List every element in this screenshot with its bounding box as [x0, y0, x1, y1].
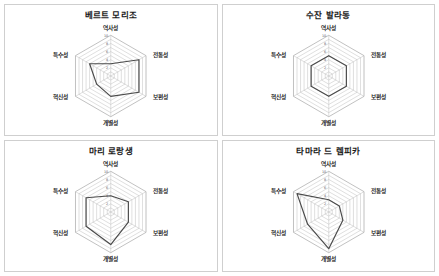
- radar-chart-grid: 베르트 모리조 108642역사성전통성보편성개별성혁신성특수성 수잔 발라동 …: [0, 0, 439, 276]
- axis-label: 특수성: [271, 51, 286, 59]
- axis-label: 보편성: [153, 93, 168, 101]
- axis-label: 개별성: [103, 255, 118, 263]
- radial-tick-label: 8: [324, 42, 326, 46]
- radial-tick-label: 2: [324, 66, 326, 70]
- panel-tamara-de-lempicka: 타마라 드 렘피카 108642역사성전통성보편성개별성혁신성특수성: [222, 140, 436, 272]
- axis-label: 특수성: [271, 187, 286, 195]
- axis-label: 개별성: [321, 119, 336, 127]
- radial-tick-label: 2: [324, 202, 326, 206]
- radial-tick-label: 10: [321, 34, 325, 38]
- radial-tick-label: 10: [321, 170, 325, 174]
- panel-marie-laurencin: 마리 로랑생 108642역사성전통성보편성개별성혁신성특수성: [4, 140, 218, 272]
- axis-label: 보편성: [371, 229, 386, 237]
- panel-suzanne-valadon: 수잔 발라동 108642역사성전통성보편성개별성혁신성특수성: [222, 4, 436, 136]
- radial-tick-label: 10: [104, 34, 108, 38]
- radar-svg: 108642역사성전통성보편성개별성혁신성특수성: [223, 19, 435, 133]
- axis-label: 전통성: [371, 51, 386, 59]
- axis-label: 역사성: [321, 160, 336, 168]
- radial-tick-label: 6: [324, 50, 326, 54]
- radar-chart-marie-laurencin: 108642역사성전통성보편성개별성혁신성특수성: [5, 155, 217, 269]
- radial-tick-label: 6: [324, 186, 326, 190]
- axis-label: 개별성: [321, 255, 336, 263]
- radar-svg: 108642역사성전통성보편성개별성혁신성특수성: [5, 155, 217, 269]
- axis-label: 보편성: [371, 93, 386, 101]
- radar-svg: 108642역사성전통성보편성개별성혁신성특수성: [223, 155, 435, 269]
- radial-tick-label: 2: [106, 66, 108, 70]
- radial-tick-label: 4: [106, 58, 108, 62]
- axis-label: 역사성: [103, 160, 118, 168]
- axis-label: 특수성: [53, 51, 68, 59]
- radial-tick-label: 10: [104, 170, 108, 174]
- radial-tick-label: 8: [106, 178, 108, 182]
- axis-label: 전통성: [371, 187, 386, 195]
- axis-label: 특수성: [53, 187, 68, 195]
- radial-tick-label: 6: [106, 50, 108, 54]
- radial-tick-label: 6: [106, 186, 108, 190]
- radial-tick-label: 8: [324, 178, 326, 182]
- axis-label: 보편성: [153, 229, 168, 237]
- radar-chart-suzanne-valadon: 108642역사성전통성보편성개별성혁신성특수성: [223, 19, 435, 133]
- axis-label: 전통성: [153, 187, 168, 195]
- radial-tick-label: 4: [324, 194, 326, 198]
- axis-label: 혁신성: [53, 93, 68, 101]
- axis-label: 혁신성: [271, 93, 286, 101]
- axis-label: 혁신성: [271, 229, 286, 237]
- radial-tick-label: 8: [106, 42, 108, 46]
- axis-label: 전통성: [153, 51, 168, 59]
- axis-label: 혁신성: [53, 229, 68, 237]
- axis-label: 역사성: [321, 24, 336, 32]
- radial-tick-label: 2: [106, 202, 108, 206]
- radar-svg: 108642역사성전통성보편성개별성혁신성특수성: [5, 19, 217, 133]
- axis-label: 개별성: [103, 119, 118, 127]
- axis-label: 역사성: [103, 24, 118, 32]
- radar-chart-tamara-de-lempicka: 108642역사성전통성보편성개별성혁신성특수성: [223, 155, 435, 269]
- radar-chart-berthe-morisot: 108642역사성전통성보편성개별성혁신성특수성: [5, 19, 217, 133]
- panel-berthe-morisot: 베르트 모리조 108642역사성전통성보편성개별성혁신성특수성: [4, 4, 218, 136]
